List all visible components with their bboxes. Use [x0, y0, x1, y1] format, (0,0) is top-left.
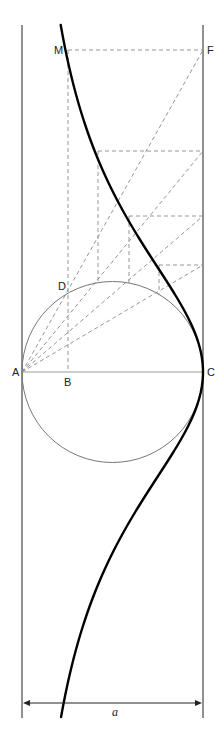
dimension-label: a	[112, 705, 118, 719]
point-label-f: F	[207, 44, 214, 56]
point-label-c: C	[207, 366, 215, 378]
background	[0, 0, 215, 738]
point-label-d: D	[58, 280, 66, 292]
witch-of-agnesi-diagram: a A B C D M F	[0, 0, 215, 738]
point-label-a: A	[12, 366, 20, 378]
point-label-m: M	[54, 44, 63, 56]
point-label-b: B	[64, 376, 71, 388]
